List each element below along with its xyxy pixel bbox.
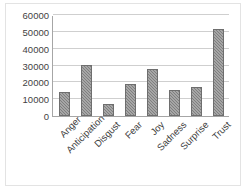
bar-surprise[interactable] [191, 87, 202, 116]
y-axis-tick-label: 50000 [1, 28, 49, 38]
bar-slot [53, 16, 75, 116]
chart-container: 0100002000030000400005000060000 AngerAnt… [0, 0, 245, 190]
bar-anticipation[interactable] [81, 65, 92, 116]
y-axis-tick-label: 20000 [1, 79, 49, 89]
bar-disgust[interactable] [103, 104, 114, 116]
bar-slot [119, 16, 141, 116]
bar-slot [207, 16, 229, 116]
y-axis-tick-label: 30000 [1, 62, 49, 72]
y-axis-tick-label: 0 [1, 112, 49, 122]
bar-anger[interactable] [59, 92, 70, 116]
y-axis: 0100002000030000400005000060000 [0, 16, 49, 117]
bar-slot [75, 16, 97, 116]
bar-slot [163, 16, 185, 116]
y-axis-tick-label: 60000 [1, 11, 49, 21]
gridline [53, 14, 229, 15]
bar-trust[interactable] [213, 29, 224, 116]
y-axis-tick-label: 40000 [1, 45, 49, 55]
bar-slot [141, 16, 163, 116]
x-axis: AngerAnticipationDisgustFearJoySadnessSu… [52, 117, 229, 177]
plot-area [52, 16, 229, 117]
bar-slot [185, 16, 207, 116]
bar-sadness[interactable] [169, 90, 180, 116]
bar-series [53, 16, 229, 116]
bar-slot [97, 16, 119, 116]
y-axis-tick-label: 10000 [1, 95, 49, 105]
bar-joy[interactable] [147, 69, 158, 116]
bar-fear[interactable] [125, 84, 136, 116]
